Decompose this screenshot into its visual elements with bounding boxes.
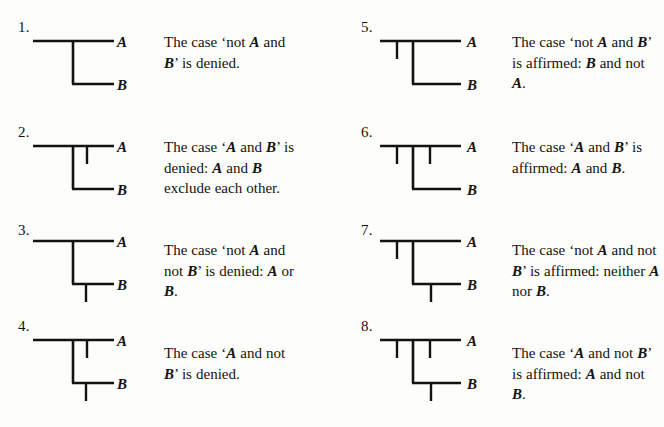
- existential-graph-2: [30, 137, 120, 199]
- label-b-6: B: [467, 183, 477, 198]
- existential-graph-3: [30, 232, 120, 304]
- existential-graph-5: [377, 32, 467, 94]
- label-a-6: A: [467, 140, 477, 155]
- label-b-2: B: [117, 183, 127, 198]
- caption-2: The case ‘A and B’ is denied: A and B ex…: [164, 137, 299, 199]
- entry-number-1: 1.: [18, 19, 30, 36]
- entry-number-6: 6.: [361, 124, 373, 141]
- existential-graph-7: [377, 232, 467, 304]
- caption-8: The case ‘A and not B’ is affirmed: A an…: [512, 343, 662, 405]
- caption-7: The case ‘not A and not B’ is affirmed: …: [512, 240, 662, 302]
- caption-3: The case ‘not A and not B’ is denied: A …: [164, 240, 299, 302]
- entry-number-7: 7.: [361, 222, 373, 239]
- label-a-5: A: [467, 35, 477, 50]
- label-a-7: A: [467, 235, 477, 250]
- existential-graph-1: [30, 32, 120, 94]
- label-b-4: B: [117, 377, 127, 392]
- label-a-2: A: [117, 140, 127, 155]
- entry-number-5: 5.: [361, 19, 373, 36]
- label-b-7: B: [467, 278, 477, 293]
- label-a-8: A: [467, 334, 477, 349]
- label-a-4: A: [117, 334, 127, 349]
- existential-graph-8: [377, 331, 467, 403]
- label-b-3: B: [117, 278, 127, 293]
- caption-1: The case ‘not A and B’ is denied.: [164, 32, 299, 73]
- label-a-1: A: [117, 35, 127, 50]
- caption-5: The case ‘not A and B’ is affirmed: B an…: [512, 32, 662, 94]
- figure-page: 1. A B The case ‘not A and B’ is denied.…: [0, 0, 664, 427]
- caption-4: The case ‘A and not B’ is denied.: [164, 343, 299, 384]
- caption-6: The case ‘A and B’ is affirmed: A and B.: [512, 137, 662, 178]
- label-b-8: B: [467, 377, 477, 392]
- label-b-1: B: [117, 78, 127, 93]
- label-b-5: B: [467, 78, 477, 93]
- existential-graph-4: [30, 331, 120, 403]
- entry-number-4: 4.: [18, 318, 30, 335]
- entry-number-3: 3.: [18, 222, 30, 239]
- entry-number-8: 8.: [361, 318, 373, 335]
- existential-graph-6: [377, 137, 467, 199]
- entry-number-2: 2.: [18, 124, 30, 141]
- label-a-3: A: [117, 235, 127, 250]
